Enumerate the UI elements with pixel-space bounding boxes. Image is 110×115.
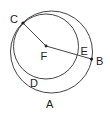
label-c: C [10,13,18,25]
diagram-canvas: C F E B D A [0,0,110,115]
label-f: F [41,50,48,62]
circle-diagram: C F E B D A [0,0,110,115]
label-a: A [46,98,54,110]
label-b: B [96,55,103,67]
point-b [90,57,93,60]
segment-cf [23,23,46,46]
label-e: E [81,45,88,57]
point-c [21,21,24,24]
label-d: D [30,77,38,89]
point-f [45,45,48,48]
